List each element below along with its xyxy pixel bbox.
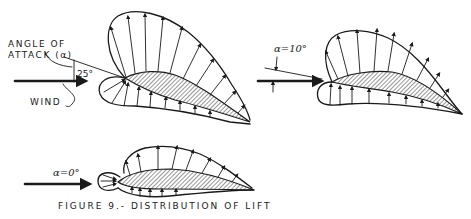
angle-of-attack-label-1: ANGLE OF <box>8 39 66 49</box>
angle-label: α=0° <box>53 167 80 178</box>
chord-line <box>265 68 322 79</box>
airfoil-shape <box>332 71 462 114</box>
diagram-alpha-10: α=10° <box>258 30 462 114</box>
lift-distribution-figure: ANGLE OF ATTACK (α) 25° WIND <box>0 0 471 219</box>
leading-edge-bulb <box>98 173 120 191</box>
angle-of-attack-label-2: ATTACK (α) <box>8 50 73 60</box>
figure-caption: FIGURE 9.- DISTRIBUTION OF LIFT <box>58 201 272 211</box>
angle-pointer-top <box>276 57 277 69</box>
diagram-alpha-25: ANGLE OF ATTACK (α) 25° WIND <box>8 12 250 124</box>
angle-value: 25° <box>77 69 93 79</box>
wind-label: WIND <box>30 97 61 107</box>
diagram-alpha-0: α=0° <box>25 146 254 197</box>
wind-leader-line <box>63 84 75 107</box>
airfoil-shape <box>125 72 250 122</box>
angle-label: α=10° <box>274 43 307 54</box>
